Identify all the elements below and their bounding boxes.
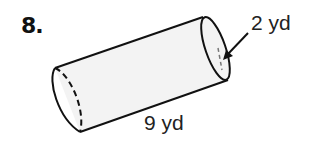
diameter-label: 2 yd — [251, 11, 291, 35]
diameter-arrow — [228, 33, 248, 54]
length-label: 9 yd — [144, 111, 184, 135]
